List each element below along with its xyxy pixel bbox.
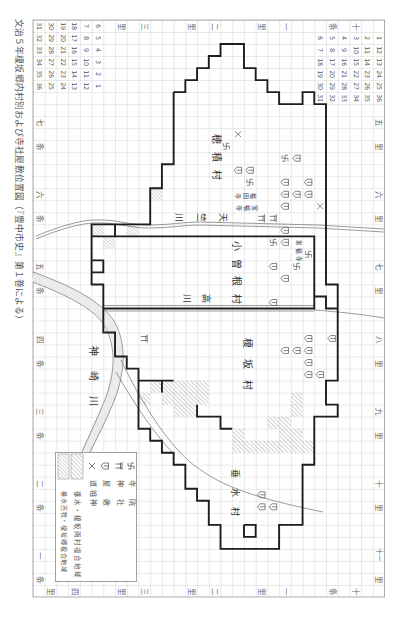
- grid-label: 三: [35, 407, 43, 414]
- grid-label: 六: [35, 191, 43, 198]
- tsubo-number: 1: [376, 36, 382, 40]
- grid-label: 里: [187, 23, 195, 30]
- tsubo-number: 33: [340, 94, 346, 102]
- legend-label-hatch-a: 垂水・榎坂両村複合地域: [74, 491, 81, 579]
- tsubo-number: 6: [317, 36, 323, 40]
- grid-label: 里: [187, 587, 195, 594]
- temple-name-label: 常福寺: [295, 240, 301, 264]
- house-icon: [101, 463, 109, 469]
- tsubo-number: 30: [317, 82, 323, 90]
- tsubo-number: 17: [329, 58, 335, 66]
- tsubo-number: 14: [71, 70, 77, 78]
- tsubo-number: 11: [364, 46, 370, 54]
- grid-label: 里: [117, 23, 125, 30]
- tsubo-number: 22: [352, 70, 358, 78]
- grid-label: 里: [375, 359, 383, 366]
- tsubo-number: 36: [376, 94, 382, 102]
- tsubo-number: 3: [94, 60, 100, 64]
- tsubo-number: 33: [36, 46, 42, 54]
- tsubo-number: 5: [329, 36, 335, 40]
- grid-label: 里: [375, 287, 383, 294]
- grid-label: 七: [35, 119, 43, 126]
- tsubo-number: 3: [352, 36, 358, 40]
- grid-label: 八: [375, 335, 383, 342]
- grid-label: 里: [375, 575, 383, 582]
- temple-name-label: 宝福寺: [234, 204, 258, 210]
- tsubo-number: 30: [47, 22, 53, 30]
- shrine-icon: [116, 462, 123, 470]
- tsubo-number: 11: [83, 70, 89, 78]
- grid-label: 条: [328, 23, 336, 30]
- tsubo-number: 18: [317, 58, 323, 66]
- tsubo-number: 14: [364, 58, 370, 66]
- tsubo-number: 27: [47, 58, 53, 66]
- tsubo-number: 27: [352, 82, 358, 90]
- legend-label-house: 屋敷: [102, 480, 109, 518]
- tsubo-number: 31: [36, 22, 42, 30]
- tsubo-number: 32: [329, 94, 335, 102]
- tsubo-number: 12: [376, 46, 382, 54]
- tsubo-number: 10: [83, 58, 89, 66]
- tsubo-number: 16: [340, 58, 346, 66]
- tsubo-number: 21: [340, 70, 346, 78]
- dosojin-icon: [89, 463, 95, 469]
- tsubo-number: 19: [317, 70, 323, 78]
- tsubo-number: 35: [36, 70, 42, 78]
- grid-label: 五: [375, 119, 383, 126]
- temple-name-label: 福田寺: [234, 192, 256, 198]
- legend-symbols: [56, 453, 138, 583]
- tsubo-number: 26: [47, 70, 53, 78]
- grid-label: 十: [352, 23, 360, 30]
- legend-label-hatch-b: 垂水西牧・榎坂郷複合地域: [61, 491, 67, 573]
- legend-label-shrine: 神社: [116, 480, 123, 518]
- grid-label: 里: [47, 587, 55, 594]
- tsubo-number: 5: [94, 36, 100, 40]
- legend-label-temple: 寺院: [128, 480, 135, 518]
- tsubo-number: 12: [83, 82, 89, 90]
- tsubo-number: 29: [47, 34, 53, 42]
- legend-label-dosojin: 道祖神: [89, 480, 96, 509]
- tsubo-number: 24: [376, 70, 382, 78]
- tsubo-number: 28: [47, 46, 53, 54]
- grid-label: 四: [70, 587, 78, 594]
- grid-label: 九: [375, 407, 383, 414]
- enosaka-village-label: 榎坂村: [242, 338, 252, 401]
- map-title: 文治５年榎坂郷内村別および寺社屋敷位置図（『豊中市史』第１巻による）: [14, 19, 23, 324]
- tsubo-number: 9: [340, 48, 346, 52]
- tsubo-number: 34: [352, 94, 358, 102]
- tsubo-number: 4: [340, 36, 346, 40]
- grid-label: 里: [117, 587, 125, 594]
- grid-label: 三: [141, 587, 149, 594]
- tsubo-number: 15: [71, 58, 77, 66]
- tsubo-number: 4: [94, 48, 100, 52]
- grid-label: 条: [35, 503, 43, 510]
- grid-label: 五: [35, 263, 43, 270]
- grid-label: 里: [375, 503, 383, 510]
- tsubo-number: 6: [94, 24, 100, 28]
- grid-label: 里: [258, 23, 266, 30]
- grid-label: 里: [375, 143, 383, 150]
- tsubo-number: 7: [317, 48, 323, 52]
- tsubo-number: 32: [36, 34, 42, 42]
- tsubo-number: 22: [59, 58, 65, 66]
- grid-label: 二: [211, 587, 219, 594]
- grid-label: 一: [35, 551, 43, 558]
- tsubo-number: 19: [59, 22, 65, 30]
- tsubo-number: 16: [71, 46, 77, 54]
- tsubo-number: 31: [317, 94, 323, 102]
- grid-label: 十: [352, 587, 360, 594]
- tsubo-number: 7: [83, 24, 89, 28]
- tsubo-number: 28: [340, 82, 346, 90]
- tsubo-number: 17: [71, 34, 77, 42]
- tsubo-number: 25: [47, 82, 53, 90]
- tsubo-number: 29: [329, 82, 335, 90]
- tsubo-number: 24: [59, 82, 65, 90]
- grid-label: 十: [375, 479, 383, 486]
- tsubo-number: 23: [364, 70, 370, 78]
- tsubo-number: 26: [364, 82, 370, 90]
- kosone-village-label: 小曽根村: [231, 241, 241, 311]
- tsubo-number: 36: [36, 82, 42, 90]
- grid-label: 二: [35, 479, 43, 486]
- grid-label: 条: [35, 143, 43, 150]
- tsubo-number: 10: [352, 46, 358, 54]
